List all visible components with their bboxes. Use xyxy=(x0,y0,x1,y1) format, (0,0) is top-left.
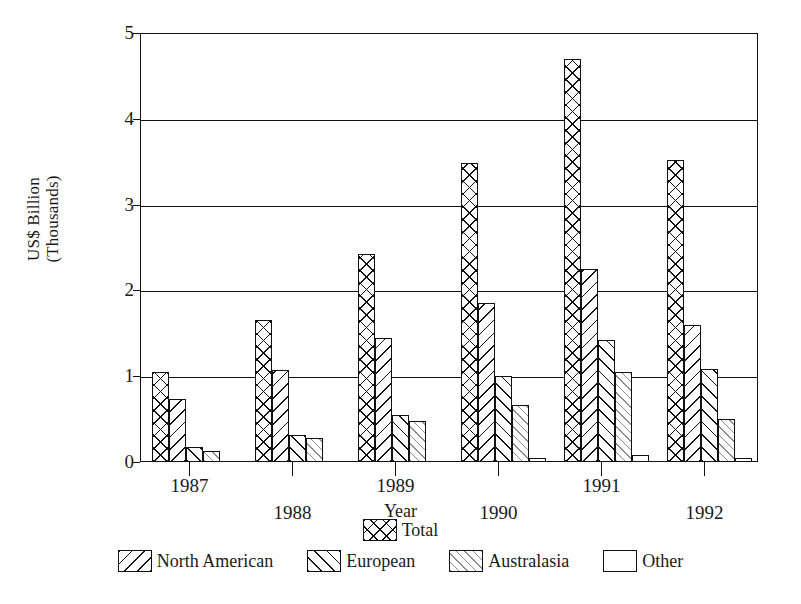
legend-swatch-icon xyxy=(118,550,152,572)
x-axis-tick-label: 1991 xyxy=(564,476,638,496)
legend-item[interactable]: European xyxy=(307,550,415,572)
bar xyxy=(598,340,615,462)
legend-item[interactable]: Other xyxy=(603,550,683,572)
legend-label: North American xyxy=(157,551,273,571)
y-axis-tick-label: 3 xyxy=(104,195,134,214)
bar-chart-figure: US$ Billion (Thousands) 012345 198719881… xyxy=(0,0,801,604)
y-axis-title: US$ Billion (Thousands) xyxy=(24,124,62,314)
bar xyxy=(478,303,495,462)
bar xyxy=(564,59,581,462)
legend-label: European xyxy=(346,551,415,571)
bar-group xyxy=(552,33,655,462)
legend-swatch-icon xyxy=(449,550,483,572)
legend-label: Total xyxy=(402,520,439,540)
bar xyxy=(615,372,632,462)
legend-swatch-icon xyxy=(363,519,397,541)
bar xyxy=(358,254,375,462)
y-axis-tick-label: 1 xyxy=(104,366,134,385)
bar xyxy=(495,376,512,462)
y-axis-tick-label: 0 xyxy=(104,452,134,471)
bar-groups xyxy=(140,33,758,462)
legend-swatch-icon xyxy=(307,550,341,572)
y-axis-tick-mark xyxy=(133,205,140,206)
bar xyxy=(375,338,392,462)
bar xyxy=(152,372,169,462)
x-axis-tick-label: 1989 xyxy=(358,476,432,496)
bar-group xyxy=(140,33,243,462)
legend-label: Australasia xyxy=(488,551,569,571)
x-axis-tick-mark xyxy=(292,462,293,476)
bar xyxy=(684,325,701,462)
bar xyxy=(255,320,272,462)
y-axis-tick-mark xyxy=(133,290,140,291)
bar-group xyxy=(243,33,346,462)
legend-item[interactable]: North American xyxy=(118,550,273,572)
y-axis-tick-mark xyxy=(133,376,140,377)
y-axis-tick-mark xyxy=(133,33,140,34)
legend-row-top: Total xyxy=(0,519,801,541)
y-axis-tick-label: 5 xyxy=(104,23,134,42)
y-axis-tick-label: 4 xyxy=(104,109,134,128)
legend-label: Other xyxy=(642,551,683,571)
x-axis-tick-mark xyxy=(395,462,396,476)
y-axis-tick-label: 2 xyxy=(104,280,134,299)
legend-item[interactable]: Australasia xyxy=(449,550,569,572)
bar xyxy=(461,163,478,462)
y-axis-tick-mark xyxy=(133,462,140,463)
x-axis-tick-label: 1987 xyxy=(152,476,226,496)
bar-group xyxy=(346,33,449,462)
bar xyxy=(529,458,546,462)
bar-group xyxy=(449,33,552,462)
bar xyxy=(632,455,649,462)
bar xyxy=(306,438,323,462)
bar xyxy=(512,405,529,462)
bar-group xyxy=(655,33,758,462)
x-axis-tick-mark xyxy=(189,462,190,476)
bar xyxy=(581,269,598,462)
x-axis-tick-mark xyxy=(498,462,499,476)
x-axis-tick-mark xyxy=(601,462,602,476)
legend-swatch-icon xyxy=(603,550,637,572)
bar xyxy=(392,415,409,462)
bar xyxy=(409,421,426,462)
bar xyxy=(701,369,718,462)
bar xyxy=(203,451,220,462)
bar xyxy=(718,419,735,462)
y-axis-tick-mark xyxy=(133,119,140,120)
legend-row-bottom: North AmericanEuropeanAustralasiaOther xyxy=(0,550,801,572)
bar xyxy=(289,435,306,462)
legend-item[interactable]: Total xyxy=(363,519,439,541)
bar xyxy=(272,370,289,462)
bar xyxy=(169,399,186,462)
bar xyxy=(667,160,684,462)
bar xyxy=(735,458,752,462)
bar xyxy=(186,447,203,462)
x-axis-tick-mark xyxy=(704,462,705,476)
